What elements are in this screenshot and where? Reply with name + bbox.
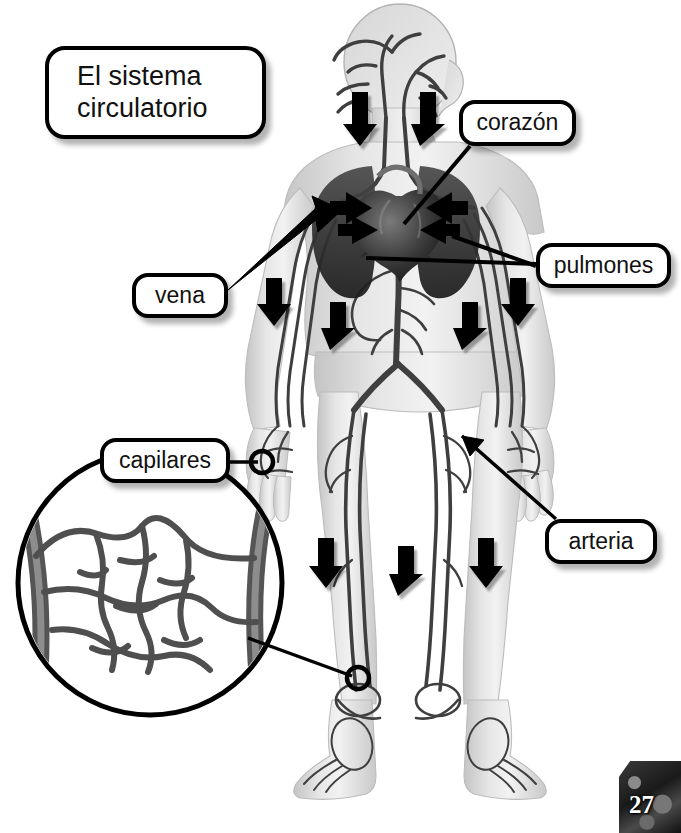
label-lungs[interactable]: pulmones [536, 243, 671, 288]
label-artery-text: arteria [568, 528, 633, 555]
label-heart-text: corazón [477, 109, 559, 136]
label-capillaries-text: capilares [119, 447, 211, 474]
label-artery[interactable]: arteria [545, 519, 657, 564]
label-capillaries[interactable]: capilares [100, 438, 230, 483]
label-heart[interactable]: corazón [459, 100, 576, 146]
page-number: 27 [629, 791, 654, 819]
diagram-page: El sistema circulatorio corazón pulmones… [0, 0, 681, 833]
title-callout: El sistema circulatorio [45, 46, 266, 139]
page-title: El sistema circulatorio [49, 61, 262, 125]
label-lungs-text: pulmones [554, 252, 654, 279]
page-corner: 27 [619, 761, 681, 833]
leader-capilares-bottom [248, 638, 352, 676]
marker-circle-leg [347, 667, 369, 689]
label-vein[interactable]: vena [132, 273, 228, 318]
leader-corazon [404, 146, 470, 224]
label-vein-text: vena [155, 282, 205, 309]
leader-vena [228, 196, 342, 290]
